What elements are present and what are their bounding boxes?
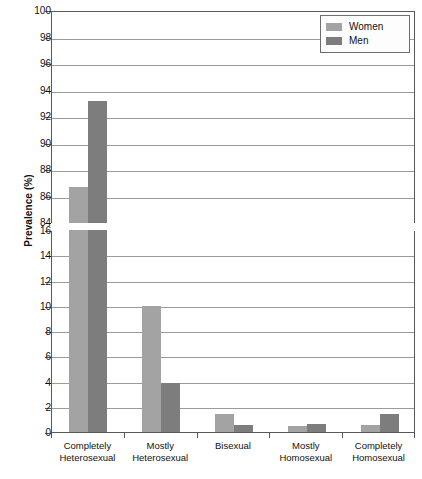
- x-axis-label-line: Homosexual: [342, 452, 415, 464]
- bar-chart: Prevalence (%) 8486889092949698100 02468…: [0, 0, 422, 479]
- x-axis-label-line: Completely: [342, 440, 415, 452]
- y-axis-ticks-upper: 8486889092949698100: [0, 11, 51, 223]
- x-axis-label-line: Heterosexual: [124, 452, 197, 464]
- x-axis-label-line: Heterosexual: [51, 452, 124, 464]
- y-tick-label: 2: [7, 403, 51, 413]
- x-axis-label: CompletelyHeterosexual: [51, 440, 124, 464]
- bar-men-4: [380, 414, 399, 432]
- y-tick-label: 6: [7, 352, 51, 362]
- bar-men-1: [161, 383, 180, 432]
- x-axis-label-line: Mostly: [124, 440, 197, 452]
- bar-women-1: [142, 306, 161, 432]
- gridline: [52, 92, 414, 93]
- legend-item-men: Men: [326, 34, 404, 48]
- legend-label-men: Men: [349, 36, 368, 46]
- y-axis-ticks-lower: 0246810121416: [0, 231, 51, 433]
- x-axis-label: Bisexual: [197, 440, 270, 452]
- bar-men-3: [307, 424, 326, 432]
- y-tick-label: 14: [7, 251, 51, 261]
- y-tick-label: 94: [7, 86, 51, 96]
- x-tick-mark: [197, 433, 198, 438]
- x-tick-mark: [269, 433, 270, 438]
- bar-women-0: [69, 230, 88, 432]
- plot-area-lower: [52, 231, 414, 432]
- y-tick-label: 92: [7, 112, 51, 122]
- y-tick-label: 4: [7, 378, 51, 388]
- y-tick-label: 8: [7, 327, 51, 337]
- y-tick-label: 0: [7, 428, 51, 438]
- bar-men-0: [88, 101, 107, 223]
- chart-panel-lower: [51, 231, 415, 433]
- y-tick-label: 96: [7, 59, 51, 69]
- bar-women-2: [215, 414, 234, 432]
- y-tick-label: 10: [7, 302, 51, 312]
- bar-women-4: [361, 425, 380, 432]
- bar-women-3: [288, 426, 307, 432]
- legend-label-women: Women: [349, 22, 383, 32]
- x-axis-label-line: Bisexual: [197, 440, 270, 452]
- x-axis: CompletelyHeterosexualMostlyHeterosexual…: [51, 433, 415, 479]
- x-tick-mark: [124, 433, 125, 438]
- bar-women-0: [69, 187, 88, 223]
- x-tick-mark: [414, 433, 415, 438]
- x-axis-label-line: Homosexual: [269, 452, 342, 464]
- x-axis-label-line: Mostly: [269, 440, 342, 452]
- bar-men-0: [88, 230, 107, 432]
- legend-swatch-women-icon: [326, 23, 342, 31]
- y-tick-label: 100: [7, 6, 51, 16]
- y-tick-label: 86: [7, 192, 51, 202]
- x-tick-mark: [51, 433, 52, 438]
- legend: Women Men: [320, 15, 410, 53]
- gridline: [52, 65, 414, 66]
- y-tick-label: 16: [7, 226, 51, 236]
- legend-item-women: Women: [326, 20, 404, 34]
- bar-men-2: [234, 425, 253, 432]
- y-tick-label: 12: [7, 277, 51, 287]
- y-tick-label: 98: [7, 33, 51, 43]
- x-tick-mark: [342, 433, 343, 438]
- x-axis-label: MostlyHeterosexual: [124, 440, 197, 464]
- y-tick-label: 88: [7, 165, 51, 175]
- y-tick-label: 90: [7, 139, 51, 149]
- legend-swatch-men-icon: [326, 37, 342, 45]
- x-axis-label: MostlyHomosexual: [269, 440, 342, 464]
- x-axis-label-line: Completely: [51, 440, 124, 452]
- x-axis-label: CompletelyHomosexual: [342, 440, 415, 464]
